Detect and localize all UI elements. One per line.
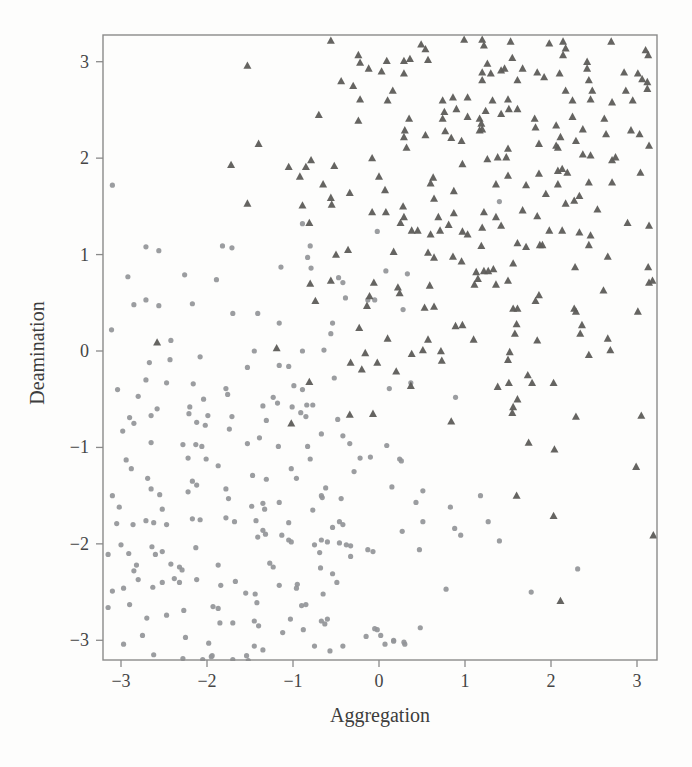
data-point-circle [229, 245, 234, 250]
data-point-circle [298, 410, 303, 415]
data-point-triangle [550, 512, 558, 519]
data-point-triangle [378, 67, 386, 74]
data-point-triangle [480, 208, 488, 215]
data-point-circle [289, 466, 294, 471]
data-point-triangle [476, 115, 484, 122]
data-point-circle [308, 265, 313, 270]
data-point-triangle [361, 349, 369, 356]
data-point-triangle [585, 178, 593, 185]
data-point-triangle [649, 531, 657, 538]
data-point-triangle [524, 371, 532, 378]
data-point-triangle [506, 348, 514, 355]
data-point-triangle [368, 154, 376, 161]
data-point-circle [153, 552, 158, 557]
data-point-triangle [436, 226, 444, 233]
data-point-circle [300, 348, 305, 353]
data-point-circle [232, 519, 237, 524]
data-point-circle [168, 338, 173, 343]
data-point-circle [205, 413, 210, 418]
data-point-circle [303, 414, 308, 419]
data-point-circle [308, 456, 313, 461]
data-point-triangle [552, 121, 560, 128]
data-point-triangle [478, 223, 486, 230]
data-point-circle [190, 479, 195, 484]
data-point-triangle [550, 379, 558, 386]
data-point-triangle [382, 208, 390, 215]
data-point-circle [160, 580, 165, 585]
data-point-triangle [452, 322, 460, 329]
data-point-circle [330, 525, 335, 530]
data-point-circle [106, 605, 111, 610]
data-point-triangle [370, 278, 378, 285]
data-point-circle [115, 387, 120, 392]
data-point-circle [301, 627, 306, 632]
data-point-triangle [383, 57, 391, 64]
data-point-triangle [556, 597, 564, 604]
data-point-circle [365, 547, 370, 552]
data-point-circle [172, 576, 177, 581]
data-point-circle [216, 606, 221, 611]
data-point-triangle [522, 181, 530, 188]
data-point-triangle [562, 44, 570, 51]
data-point-triangle [458, 257, 466, 264]
data-point-circle [149, 440, 154, 445]
data-point-circle [497, 538, 502, 543]
data-point-circle [223, 515, 228, 520]
data-point-circle [319, 537, 324, 542]
data-point-circle [317, 550, 322, 555]
data-point-circle [186, 411, 191, 416]
data-point-triangle [604, 334, 612, 341]
data-point-circle [375, 229, 380, 234]
data-point-triangle [384, 334, 392, 341]
data-point-circle [229, 414, 234, 419]
y-tick-label: 2 [80, 148, 89, 168]
data-point-triangle [572, 137, 580, 144]
data-point-circle [206, 641, 211, 646]
data-point-circle [252, 643, 257, 648]
data-point-triangle [542, 190, 550, 197]
data-point-triangle [449, 93, 457, 100]
data-point-circle [177, 580, 182, 585]
data-point-circle [303, 602, 308, 607]
data-point-triangle [645, 222, 653, 229]
data-point-triangle [636, 169, 644, 176]
data-point-circle [413, 500, 418, 505]
data-point-circle [275, 400, 280, 405]
data-point-circle [185, 455, 190, 460]
data-point-circle [299, 603, 304, 608]
data-point-circle [294, 586, 299, 591]
data-point-circle [418, 625, 423, 630]
data-point-circle [149, 486, 154, 491]
data-point-circle [255, 311, 260, 316]
data-point-triangle [571, 263, 579, 270]
data-point-circle [364, 634, 369, 639]
data-point-triangle [513, 76, 521, 83]
data-point-circle [218, 583, 223, 588]
data-point-triangle [347, 358, 355, 365]
data-point-circle [250, 473, 255, 478]
data-point-circle [121, 642, 126, 647]
data-point-triangle [608, 98, 616, 105]
data-point-circle [191, 381, 196, 386]
data-point-triangle [585, 76, 593, 83]
data-point-circle [288, 616, 293, 621]
data-point-triangle [535, 291, 543, 298]
data-point-triangle [439, 96, 447, 103]
data-point-circle [168, 562, 173, 567]
data-point-circle [180, 442, 185, 447]
data-point-circle [203, 423, 208, 428]
data-point-circle [420, 519, 425, 524]
data-point-triangle [243, 199, 251, 206]
data-point-triangle [579, 125, 587, 132]
data-point-circle [151, 520, 156, 525]
data-point-circle [318, 565, 323, 570]
data-point-triangle [424, 335, 432, 342]
data-point-triangle [604, 252, 612, 259]
data-point-circle [155, 406, 160, 411]
data-point-triangle [298, 201, 306, 208]
data-point-circle [140, 633, 145, 638]
data-point-triangle [504, 95, 512, 102]
data-point-circle [319, 431, 324, 436]
data-point-circle [325, 539, 330, 544]
data-point-triangle [419, 346, 427, 353]
